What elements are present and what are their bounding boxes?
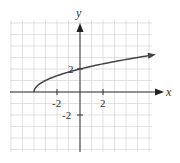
y-axis-arrow-icon bbox=[77, 23, 84, 32]
x-axis-label: x bbox=[165, 85, 172, 99]
y-axis-label: y bbox=[75, 6, 82, 20]
tick-label-x-2: 2 bbox=[100, 97, 106, 109]
graph: -2 2 2 -2 x y bbox=[0, 0, 180, 163]
tick-label-x-neg2: -2 bbox=[52, 97, 61, 109]
curve-arrow-icon bbox=[148, 53, 156, 59]
tick-label-y-2: 2 bbox=[68, 63, 74, 75]
tick-label-y-neg2: -2 bbox=[62, 109, 71, 121]
x-axis-arrow-icon bbox=[155, 89, 164, 96]
grid-lines bbox=[10, 20, 152, 152]
